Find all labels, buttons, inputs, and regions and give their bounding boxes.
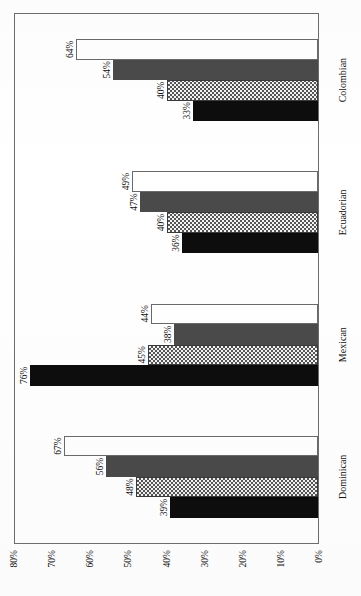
bar-dominican-1980: 39% <box>170 497 318 517</box>
bar-value-label: 47% <box>129 193 139 210</box>
bar-ecuadorian-1980: 36% <box>182 233 318 253</box>
y-axis-tick-0: 0% <box>314 550 324 596</box>
bar-colombian-2000: 54% <box>113 60 318 80</box>
y-axis-tick-50: 50% <box>123 550 133 596</box>
y-axis-tick-80: 80% <box>9 550 19 596</box>
y-axis-tick-labels: 80%70%60%50%40%30%20%10%0% <box>14 544 319 596</box>
bar-colombian-1990: 40% <box>167 80 319 100</box>
bar-value-label: 40% <box>156 82 166 99</box>
bar-value-label: 40% <box>156 214 166 231</box>
category-label-colombian: Colombian <box>337 14 348 146</box>
category-label-ecuadorian: Ecuadorian <box>337 146 348 278</box>
bar-value-label: 67% <box>53 437 63 454</box>
bar-value-label: 64% <box>65 41 75 58</box>
category-label-mexican: Mexican <box>337 279 348 411</box>
bar-colombian-1980: 33% <box>193 101 318 121</box>
bar-dominican-2000: 56% <box>106 456 318 476</box>
bar-value-label: 48% <box>125 478 135 495</box>
bar-value-label: 56% <box>95 458 105 475</box>
grouped-bar-chart: 80%70%60%50%40%30%20%10%0% Dominican39%4… <box>0 0 361 596</box>
bar-dominican-2005: 67% <box>64 436 318 456</box>
bar-mexican-1980: 76% <box>30 365 318 385</box>
category-label-dominican: Dominican <box>337 411 348 543</box>
bar-mexican-1990: 45% <box>148 345 318 365</box>
bar-group-ecuadorian: 36%40%47%49% <box>15 171 318 253</box>
bar-value-label: 45% <box>137 346 147 363</box>
bar-colombian-2005: 64% <box>76 39 318 59</box>
bar-mexican-2000: 38% <box>174 324 318 344</box>
bar-group-colombian: 33%40%54%64% <box>15 39 318 121</box>
bar-mexican-2005: 44% <box>151 304 318 324</box>
bar-value-label: 38% <box>163 326 173 343</box>
bar-value-label: 49% <box>121 173 131 190</box>
bar-dominican-1990: 48% <box>136 477 318 497</box>
bar-group-mexican: 76%45%38%44% <box>15 304 318 386</box>
bar-value-label: 33% <box>182 102 192 119</box>
bar-value-label: 39% <box>159 499 169 516</box>
bar-value-label: 76% <box>19 367 29 384</box>
bar-value-label: 54% <box>102 61 112 78</box>
y-axis-tick-70: 70% <box>47 550 57 596</box>
y-axis-tick-20: 20% <box>238 550 248 596</box>
bar-value-label: 36% <box>171 234 181 251</box>
bar-value-label: 44% <box>140 305 150 322</box>
bar-ecuadorian-1990: 40% <box>167 212 319 232</box>
y-axis-tick-40: 40% <box>162 550 172 596</box>
rotated-figure-stage: 80%70%60%50%40%30%20%10%0% Dominican39%4… <box>0 0 361 596</box>
bar-group-dominican: 39%48%56%67% <box>15 436 318 518</box>
bar-ecuadorian-2000: 47% <box>140 192 318 212</box>
y-axis-tick-30: 30% <box>200 550 210 596</box>
y-axis-tick-10: 10% <box>276 550 286 596</box>
bars-area: Dominican39%48%56%67%Mexican76%45%38%44%… <box>15 14 318 543</box>
bar-ecuadorian-2005: 49% <box>132 171 318 191</box>
y-axis-tick-60: 60% <box>85 550 95 596</box>
